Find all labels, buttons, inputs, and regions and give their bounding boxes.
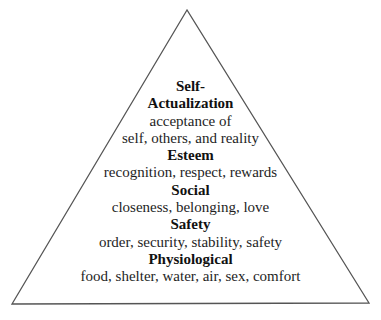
level-self-actualization-title-2: Actualization bbox=[0, 95, 381, 112]
level-social-desc: closeness, belonging, love bbox=[0, 199, 381, 216]
level-safety-desc: order, security, stability, safety bbox=[0, 234, 381, 251]
level-esteem-title: Esteem bbox=[0, 147, 381, 164]
level-physiological-title: Physiological bbox=[0, 251, 381, 268]
level-self-actualization-desc-1: acceptance of bbox=[0, 113, 381, 130]
level-self-actualization-desc-2: self, others, and reality bbox=[0, 130, 381, 147]
level-self-actualization-title-1: Self- bbox=[0, 78, 381, 95]
level-physiological-desc: food, shelter, water, air, sex, comfort bbox=[0, 268, 381, 285]
level-esteem-desc: recognition, respect, rewards bbox=[0, 164, 381, 181]
level-safety-title: Safety bbox=[0, 216, 381, 233]
level-social-title: Social bbox=[0, 182, 381, 199]
pyramid-text: Self- Actualization acceptance of self, … bbox=[0, 78, 381, 286]
